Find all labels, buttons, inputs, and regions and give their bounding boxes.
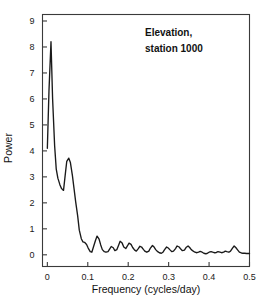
x-tick-label: 0.4	[203, 272, 216, 282]
x-axis-title: Frequency (cycles/day)	[92, 283, 201, 295]
annotation-line-1: Elevation,	[145, 27, 192, 38]
annotation-line-2: station 1000	[145, 43, 203, 54]
y-tick-label: 8	[29, 42, 34, 52]
y-tick-label: 9	[29, 16, 34, 26]
y-tick-label: 3	[29, 172, 34, 182]
y-tick-label: 6	[29, 94, 34, 104]
y-tick-label: 2	[29, 198, 34, 208]
x-tick-label: 0.5	[243, 272, 256, 282]
x-tick-label: 0.2	[122, 272, 135, 282]
x-tick-label: 0.1	[82, 272, 95, 282]
y-tick-label: 1	[29, 224, 34, 234]
y-tick-label: 0	[29, 250, 34, 260]
axis-ticks	[43, 21, 250, 267]
data-series-lines	[47, 42, 249, 254]
y-tick-label: 4	[29, 146, 34, 156]
y-axis-title: Power	[2, 133, 14, 163]
spectrum-chart-figure: 00.10.20.30.40.5 0123456789 Frequency (c…	[0, 0, 262, 303]
y-tick-label: 7	[29, 68, 34, 78]
y-axis-tick-labels: 0123456789	[29, 16, 34, 260]
x-tick-label: 0	[45, 272, 50, 282]
series-line	[47, 42, 249, 254]
y-tick-label: 5	[29, 120, 34, 130]
x-tick-label: 0.3	[162, 272, 175, 282]
x-axis-tick-labels: 00.10.20.30.40.5	[45, 272, 256, 282]
chart-canvas: 00.10.20.30.40.5 0123456789 Frequency (c…	[0, 0, 262, 303]
